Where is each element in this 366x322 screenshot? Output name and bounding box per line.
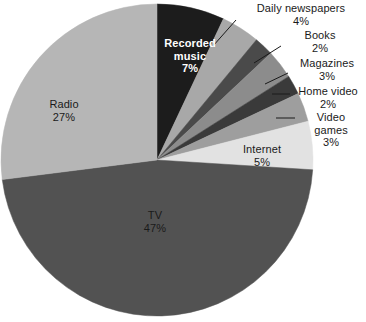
slice-label-tv-text: TV (119, 209, 191, 222)
slice-label-internet: Internet 5% (228, 143, 296, 168)
slice-callout-magazines: Magazines 3% (290, 57, 364, 82)
slice-label-home-video-text: Home video (292, 85, 364, 98)
slice-value-recorded-music: 7% (152, 62, 228, 75)
slice-label-tv: TV 47% (119, 209, 191, 234)
slice-value-books: 2% (284, 42, 356, 55)
slice-label-magazines-text: Magazines (290, 57, 364, 70)
slice-value-video-games: 3% (300, 136, 362, 149)
slice-label-books-text: Books (284, 29, 356, 42)
slice-callout-books: Books 2% (284, 29, 356, 54)
slice-callout-home-video: Home video 2% (292, 85, 364, 110)
slice-value-tv: 47% (119, 222, 191, 235)
slice-label-radio-text: Radio (28, 98, 100, 111)
slice-label-video-games-line1: Video (300, 111, 362, 124)
slice-label-recorded-music-line2: music (152, 50, 228, 63)
slice-callout-video-games: Video games 3% (300, 111, 362, 149)
slice-label-internet-text: Internet (228, 143, 296, 156)
pie-slice-radio[interactable] (1, 4, 157, 180)
slice-value-magazines: 3% (290, 70, 364, 83)
pie-chart-figure: Recorded music 7% Radio 27% TV 47% Inter… (0, 0, 366, 322)
slice-value-internet: 5% (228, 156, 296, 169)
slice-value-daily-newspapers: 4% (238, 15, 364, 28)
slice-label-recorded-music-line1: Recorded (152, 37, 228, 50)
slice-label-video-games-line2: games (300, 124, 362, 137)
slice-value-home-video: 2% (292, 98, 364, 111)
slice-label-daily-newspapers-text: Daily newspapers (238, 2, 364, 15)
slice-label-recorded-music: Recorded music 7% (152, 37, 228, 75)
slice-value-radio: 27% (28, 111, 100, 124)
pie-slice-tv[interactable] (2, 160, 312, 316)
slice-callout-daily-newspapers: Daily newspapers 4% (238, 2, 364, 27)
slice-label-radio: Radio 27% (28, 98, 100, 123)
